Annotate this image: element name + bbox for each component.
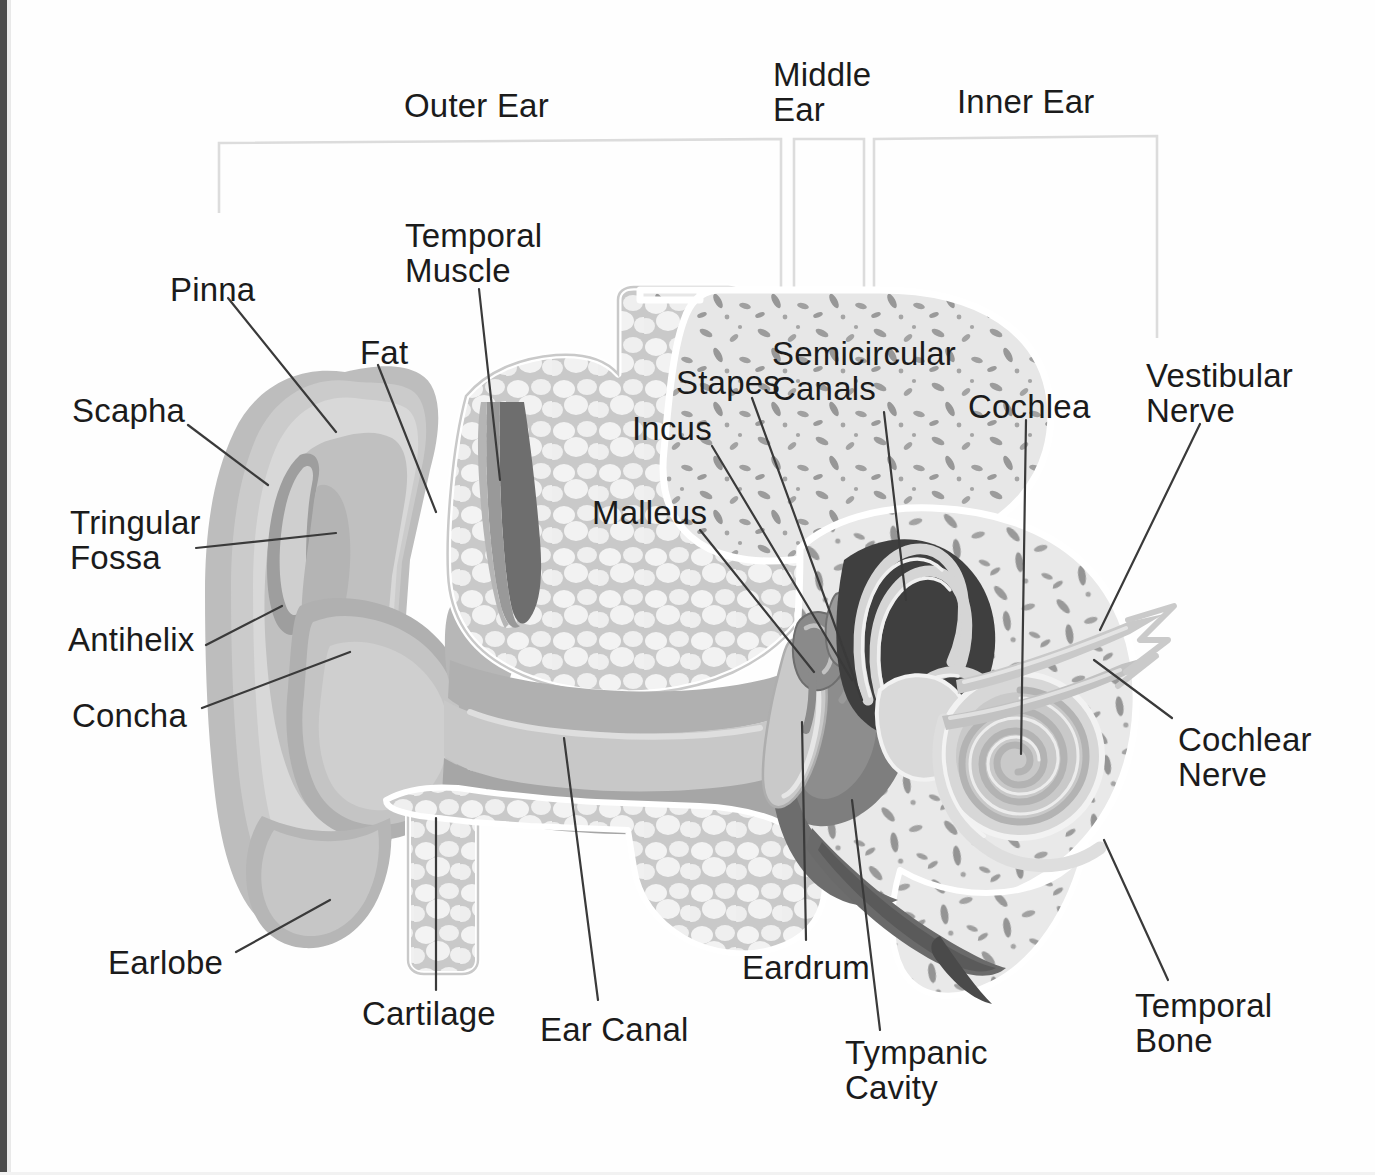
label-fat: Fat: [360, 335, 408, 370]
label-semicircular: Semicircular Canals: [772, 336, 956, 407]
diagram-canvas: Outer EarMiddle EarInner EarPinnaTempora…: [0, 0, 1375, 1175]
label-incus: Incus: [632, 411, 712, 446]
label-malleus: Malleus: [592, 495, 707, 530]
label-middle-ear: Middle Ear: [773, 57, 871, 128]
label-ear-canal: Ear Canal: [540, 1012, 689, 1047]
label-vestibular-nerve: Vestibular Nerve: [1146, 358, 1293, 429]
label-concha: Concha: [72, 698, 187, 733]
label-temporal-muscle: Temporal Muscle: [405, 218, 542, 289]
label-cochlea: Cochlea: [968, 389, 1090, 424]
label-tringular-fossa: Tringular Fossa: [70, 505, 201, 576]
label-earlobe: Earlobe: [108, 945, 223, 980]
label-eardrum: Eardrum: [742, 950, 870, 985]
label-outer-ear: Outer Ear: [404, 88, 549, 123]
label-inner-ear: Inner Ear: [957, 84, 1095, 119]
label-temporal-bone: Temporal Bone: [1135, 988, 1272, 1059]
leader-temporal-bone: [1104, 840, 1168, 980]
leader-vestibular-nerve: [1100, 424, 1200, 630]
label-cartilage: Cartilage: [362, 996, 496, 1031]
label-stapes: Stapes: [676, 365, 780, 400]
label-antihelix: Antihelix: [68, 622, 195, 657]
label-scapha: Scapha: [72, 393, 185, 428]
label-cochlear-nerve: Cochlear Nerve: [1178, 722, 1312, 793]
label-pinna: Pinna: [170, 272, 255, 307]
label-tympanic-cavity: Tympanic Cavity: [845, 1035, 988, 1106]
